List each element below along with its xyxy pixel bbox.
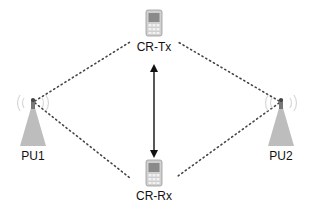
phone-icon-crrx xyxy=(146,160,162,186)
label-pu1: PU1 xyxy=(21,150,44,162)
link-pu1-crtx xyxy=(35,42,130,101)
link-pu2-crrx xyxy=(178,103,279,176)
link-pu1-crrx xyxy=(35,103,130,178)
label-cr-tx: CR-Tx xyxy=(137,41,172,53)
label-pu2: PU2 xyxy=(269,150,292,162)
diagram-canvas xyxy=(0,0,313,209)
tower-icon-pu1 xyxy=(18,95,49,146)
link-pu2-crtx xyxy=(178,42,279,101)
label-cr-rx: CR-Rx xyxy=(136,190,172,202)
dotted-links xyxy=(35,42,279,178)
tower-icon-pu2 xyxy=(266,95,297,146)
phone-icon-crtx xyxy=(146,10,162,36)
